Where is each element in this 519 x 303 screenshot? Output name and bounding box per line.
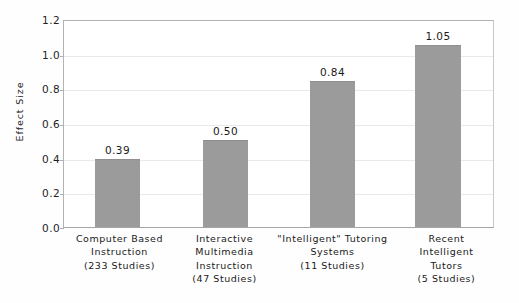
category-label-line: Tutors — [381, 259, 512, 272]
category-label-intelligent-tutoring-systems: "Intelligent" Tutoring Systems (11 Studi… — [267, 232, 398, 272]
category-label-line: (11 Studies) — [267, 259, 398, 272]
category-label-line: (5 Studies) — [381, 272, 512, 285]
y-tick-mark — [60, 228, 64, 229]
category-label-line: "Intelligent" Tutoring — [267, 232, 398, 245]
bar[interactable] — [95, 159, 140, 227]
bar[interactable] — [415, 45, 461, 227]
bar[interactable] — [203, 140, 248, 227]
x-axis-category-labels: Computer Based Instruction (233 Studies)… — [63, 232, 494, 303]
bar-value-label: 0.50 — [181, 125, 270, 137]
bar-chart: Effect Size 1.2 1.0 0.8 0.6 0.4 0.2 0.0 … — [0, 0, 519, 303]
bar-group: 0.50 — [203, 21, 248, 227]
bar-group: 1.05 — [415, 21, 461, 227]
bar-value-label: 0.84 — [288, 66, 377, 78]
bar-value-label: 1.05 — [393, 30, 483, 42]
y-tick-label: 1.2 — [26, 14, 60, 26]
bar-value-label: 0.39 — [73, 144, 162, 156]
category-label-recent-intelligent-tutors: Recent Intelligent Tutors (5 Studies) — [381, 232, 512, 286]
y-tick-label: 0.6 — [26, 118, 60, 130]
y-tick-label: 1.0 — [26, 49, 60, 61]
bars-layer: 0.39 0.50 0.84 1.05 — [64, 21, 493, 227]
y-tick-label: 0.4 — [26, 153, 60, 165]
y-tick-label: 0.2 — [26, 187, 60, 199]
category-label-line: Intelligent — [381, 245, 512, 258]
category-label-line: Recent — [381, 232, 512, 245]
y-tick-label: 0.8 — [26, 83, 60, 95]
category-label-line: Systems — [267, 245, 398, 258]
bar[interactable] — [310, 81, 355, 227]
plot-area: 0.39 0.50 0.84 1.05 — [63, 20, 494, 228]
bar-group: 0.39 — [95, 21, 140, 227]
bar-group: 0.84 — [310, 21, 355, 227]
category-label-line: (47 Studies) — [164, 272, 285, 285]
